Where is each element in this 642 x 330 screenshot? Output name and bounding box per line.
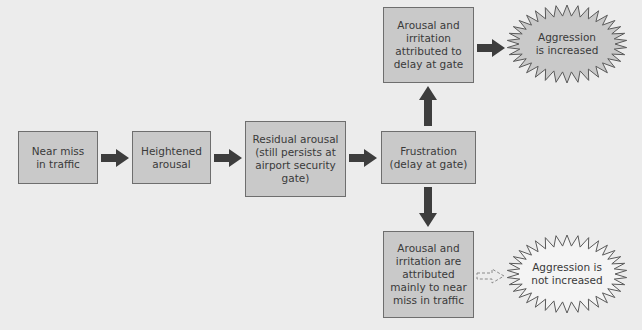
node-label: Frustration (delay at gate) <box>390 145 468 171</box>
node-label: Heightened arousal <box>141 145 202 171</box>
arrow-right-icon <box>477 39 505 57</box>
node-attributed-to-gate: Arousal and irritation attributed to del… <box>383 7 474 83</box>
outcome-label-increased: Aggression is increased <box>520 30 614 58</box>
dashed-arrow-right-icon <box>477 268 505 284</box>
node-label: Near miss in traffic <box>32 145 85 171</box>
arrow-up-icon <box>419 86 437 126</box>
arrow-right-icon <box>214 149 242 167</box>
arrow-right-icon <box>101 149 129 167</box>
arrow-right-icon <box>349 149 377 167</box>
node-near-miss: Near miss in traffic <box>18 131 98 184</box>
node-label: Arousal and irritation attributed to del… <box>394 19 464 71</box>
node-frustration: Frustration (delay at gate) <box>381 131 476 184</box>
node-label: Residual arousal (still persists at airp… <box>252 133 338 185</box>
node-attributed-to-traffic: Arousal and irritation are attributed ma… <box>383 231 474 318</box>
outcome-label-not-increased: Aggression is not increased <box>520 260 614 288</box>
node-heightened-arousal: Heightened arousal <box>132 131 211 184</box>
arrow-down-icon <box>419 187 437 227</box>
node-residual-arousal: Residual arousal (still persists at airp… <box>245 121 346 197</box>
node-label: Arousal and irritation are attributed ma… <box>390 242 466 307</box>
